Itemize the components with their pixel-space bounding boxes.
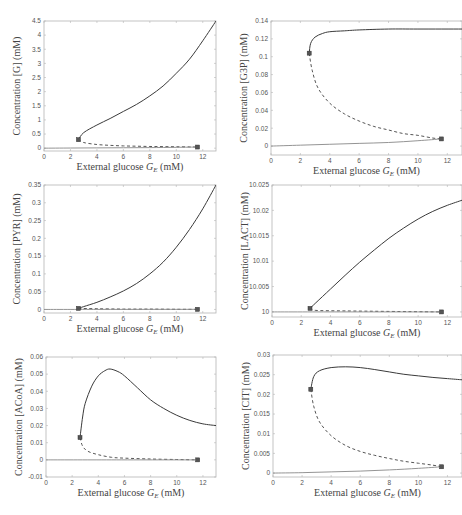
y-tick-label: 0.05 <box>28 288 41 295</box>
y-axis-label: Concentration [CIT] (mM) <box>240 362 252 470</box>
x-tick-label: 6 <box>122 315 126 322</box>
x-tick-label: 4 <box>95 153 99 160</box>
x-tick-label: 4 <box>96 479 100 486</box>
axes-frame <box>273 355 462 477</box>
x-tick-label: 8 <box>387 479 391 486</box>
y-tick-label: 0 <box>37 306 41 313</box>
bifurcation-point-marker <box>308 306 312 310</box>
curve-stable-lower <box>273 467 442 473</box>
subplot-acoa: 024681012-0.0100.010.020.030.040.050.06E… <box>13 353 216 500</box>
subplot-cit: 02468101200.0050.010.0150.020.0250.03Ext… <box>240 351 462 500</box>
curve-unstable <box>78 140 197 147</box>
curve-unstable <box>311 389 442 467</box>
bifurcation-point-marker <box>440 310 444 314</box>
bifurcation-point-marker <box>195 145 199 149</box>
x-tick-label: 6 <box>358 479 362 486</box>
bifurcation-point-marker <box>440 465 444 469</box>
y-tick-label: 0.02 <box>257 391 270 398</box>
x-tick-label: 10 <box>415 479 423 486</box>
y-tick-label: 0.03 <box>257 351 270 358</box>
x-tick-label: 6 <box>122 153 126 160</box>
curve-stable-upper <box>310 200 462 308</box>
y-tick-label: 0 <box>266 469 270 476</box>
x-tick-label: 6 <box>357 157 361 164</box>
y-tick-label: 0.06 <box>255 89 268 96</box>
curve-unstable <box>309 53 441 139</box>
subplot-g3p: 02468101200.020.040.060.080.10.120.14Ext… <box>238 17 462 178</box>
axes-frame <box>272 185 462 317</box>
curve-stable-lower <box>271 139 441 146</box>
y-tick-label: 0.015 <box>254 410 271 417</box>
bifurcation-point-marker <box>196 458 200 462</box>
y-axis-label: Concentration [ACoA] (mM) <box>13 358 25 476</box>
y-tick-label: 0.12 <box>255 35 268 42</box>
x-tick-label: 0 <box>271 479 275 486</box>
y-axis-label: Concentration [LACT] (mM) <box>239 192 251 310</box>
axes-frame <box>46 357 216 477</box>
x-tick-label: 12 <box>199 479 207 486</box>
x-tick-label: 12 <box>444 479 452 486</box>
y-tick-label: -0.01 <box>28 473 43 480</box>
y-tick-label: 0.01 <box>30 439 43 446</box>
y-tick-label: 3 <box>37 60 41 67</box>
y-tick-label: 0 <box>39 456 43 463</box>
x-tick-label: 4 <box>95 315 99 322</box>
x-tick-label: 10 <box>173 315 181 322</box>
y-tick-label: 0.02 <box>30 422 43 429</box>
y-axis-label: Concentration [G3P] (mM) <box>238 33 250 142</box>
x-tick-label: 0 <box>42 315 46 322</box>
x-tick-label: 2 <box>70 479 74 486</box>
y-tick-label: 0.005 <box>254 450 271 457</box>
y-tick-label: 10.01 <box>253 257 270 264</box>
x-tick-label: 0 <box>44 479 48 486</box>
x-axis-label: External glucose GE (mM) <box>314 487 421 500</box>
x-axis-label: External glucose GE (mM) <box>313 165 420 178</box>
y-tick-label: 0.5 <box>32 130 41 137</box>
x-tick-label: 10 <box>173 479 181 486</box>
x-tick-label: 2 <box>300 479 304 486</box>
y-tick-label: 10.015 <box>249 232 269 239</box>
y-tick-label: 10.005 <box>249 283 269 290</box>
bifurcation-point-marker <box>76 306 80 310</box>
bifurcation-point-marker <box>195 307 199 311</box>
x-tick-label: 6 <box>358 319 362 326</box>
curve-unstable <box>80 438 198 460</box>
y-axis-label: Concentration [PYR] (mM) <box>11 193 23 304</box>
y-tick-label: 0.05 <box>30 370 43 377</box>
y-tick-label: 0.04 <box>30 388 43 395</box>
y-tick-label: 2.5 <box>32 74 41 81</box>
bifurcation-point-marker <box>307 51 311 55</box>
x-tick-label: 4 <box>329 319 333 326</box>
y-tick-label: 1 <box>37 116 41 123</box>
x-tick-label: 8 <box>387 157 391 164</box>
x-axis-label: External glucose GE (mM) <box>77 323 184 336</box>
y-tick-label: 0.2 <box>32 235 41 242</box>
curve-stable-upper <box>78 21 216 140</box>
y-tick-label: 0.03 <box>30 405 43 412</box>
curve-unstable <box>310 308 442 312</box>
y-tick-label: 0.08 <box>255 71 268 78</box>
y-tick-label: 0 <box>37 144 41 151</box>
curve-stable-upper <box>78 185 216 308</box>
axes-frame <box>44 21 216 151</box>
x-tick-label: 10 <box>415 319 423 326</box>
bifurcation-point-marker <box>78 436 82 440</box>
y-tick-label: 10.02 <box>253 207 270 214</box>
x-tick-label: 2 <box>299 157 303 164</box>
subplot-g: 02468101200.511.522.533.544.5External gl… <box>11 17 216 174</box>
x-tick-label: 0 <box>270 319 274 326</box>
y-tick-label: 0.02 <box>255 125 268 132</box>
y-tick-label: 0.1 <box>259 53 268 60</box>
y-tick-label: 0.14 <box>255 17 268 24</box>
x-tick-label: 8 <box>149 479 153 486</box>
x-tick-label: 8 <box>148 315 152 322</box>
x-tick-label: 8 <box>148 153 152 160</box>
x-tick-label: 2 <box>299 319 303 326</box>
x-tick-label: 8 <box>387 319 391 326</box>
y-tick-label: 0.01 <box>257 430 270 437</box>
y-tick-label: 0.04 <box>255 107 268 114</box>
y-tick-label: 2 <box>37 88 41 95</box>
subplot-pyr: 02468101200.050.10.150.20.250.30.35Exter… <box>11 181 216 336</box>
curve-stable-upper <box>80 369 216 438</box>
x-tick-label: 12 <box>444 157 452 164</box>
